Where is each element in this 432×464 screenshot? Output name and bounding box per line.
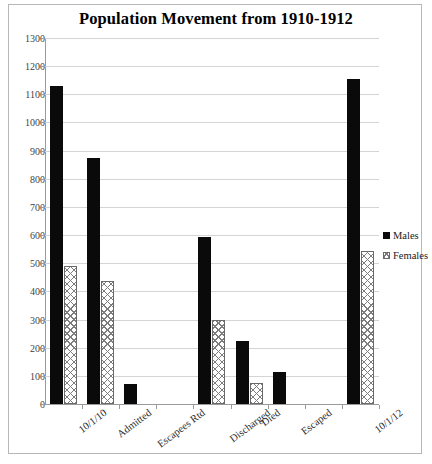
bar-group	[45, 38, 82, 404]
y-tick-label: 1200	[11, 61, 45, 72]
y-tick-label: 500	[11, 258, 45, 269]
x-tick-label: 10/1/12	[373, 407, 405, 435]
plot-area	[45, 38, 379, 404]
y-tick-label: 700	[11, 201, 45, 212]
bar-males	[50, 86, 63, 404]
bar-group	[156, 38, 193, 404]
y-tick-label: 400	[11, 286, 45, 297]
chart-container: Population Movement from 1910-1912 01002…	[8, 4, 422, 454]
bar-males	[273, 372, 286, 404]
y-tick-label: 1000	[11, 117, 45, 128]
y-tick-label: 1100	[11, 89, 45, 100]
chart-legend: MalesFemales	[383, 230, 432, 270]
bar-group	[305, 38, 342, 404]
bar-females	[101, 281, 114, 404]
y-tick-label: 100	[11, 370, 45, 381]
y-tick-label: 1300	[11, 33, 45, 44]
bar-group	[342, 38, 379, 404]
legend-item[interactable]: Females	[383, 250, 432, 261]
bar-group	[193, 38, 230, 404]
bar-females	[250, 383, 263, 404]
bar-group	[82, 38, 119, 404]
bar-males	[198, 237, 211, 405]
x-tick-label: Admitted	[115, 407, 153, 440]
legend-label: Females	[393, 250, 428, 261]
y-tick-label: 300	[11, 314, 45, 325]
bar-females	[212, 320, 225, 404]
bar-males	[347, 79, 360, 404]
bar-males	[236, 341, 249, 404]
x-tick-label: Escaped	[299, 407, 334, 437]
x-tick-label: Escapees Rtd	[155, 407, 207, 450]
bar-males	[124, 384, 137, 404]
bar-group	[119, 38, 156, 404]
legend-item[interactable]: Males	[383, 230, 432, 241]
y-tick-label: 200	[11, 342, 45, 353]
y-tick-label: 800	[11, 173, 45, 184]
y-tick-label: 600	[11, 230, 45, 241]
x-tick-label: 10/1/10	[76, 407, 108, 435]
bar-males	[87, 158, 100, 404]
bar-group	[231, 38, 268, 404]
chart-title: Population Movement from 1910-1912	[9, 9, 423, 29]
bar-females	[361, 251, 374, 404]
bar-group	[268, 38, 305, 404]
legend-swatch-males-icon	[383, 232, 390, 239]
x-axis-labels: 10/1/10AdmittedEscapees RtdDischargedDie…	[9, 407, 423, 455]
bar-females	[64, 266, 77, 404]
legend-swatch-females-icon	[383, 252, 390, 259]
y-axis-labels: 0100200300400500600700800900100011001200…	[9, 38, 45, 405]
legend-label: Males	[393, 230, 419, 241]
y-tick-label: 900	[11, 145, 45, 156]
